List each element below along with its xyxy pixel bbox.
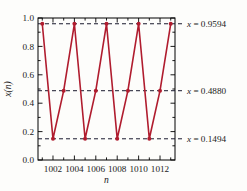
x-tick-label: 1008 <box>108 164 127 174</box>
x-tick-label: 1002 <box>44 164 63 174</box>
reference-line-label: x = 0.4880 <box>186 86 227 96</box>
data-point-marker <box>62 89 66 93</box>
chart-figure: 100210041006100810101012 0.00.20.40.60.8… <box>0 0 247 191</box>
data-point-marker <box>115 137 119 141</box>
reference-line-label: x = 0.1494 <box>186 134 227 144</box>
data-point-marker <box>51 137 55 141</box>
x-tick-label: 1006 <box>87 164 106 174</box>
x-axis-label: n <box>104 174 109 185</box>
data-point-marker <box>72 22 76 26</box>
data-point-marker <box>169 22 173 26</box>
data-point-marker <box>158 89 162 93</box>
data-point-marker <box>126 89 130 93</box>
data-point-marker <box>137 22 141 26</box>
y-tick-label: 1.0 <box>23 13 35 23</box>
x-tick-label: 1004 <box>65 164 84 174</box>
x-tick-label: 1010 <box>129 164 148 174</box>
y-tick-label: 0.6 <box>23 70 35 80</box>
y-tick-label: 0.8 <box>23 42 35 52</box>
y-tick-label: 0.0 <box>23 155 35 165</box>
period-three-orbit-chart: 100210041006100810101012 0.00.20.40.60.8… <box>0 0 247 191</box>
reference-line-label: x = 0.9594 <box>186 19 227 29</box>
y-tick-label: 0.2 <box>23 127 35 137</box>
data-point-marker <box>105 22 109 26</box>
data-point-marker <box>147 137 151 141</box>
data-point-marker <box>83 137 87 141</box>
x-tick-label: 1012 <box>151 164 170 174</box>
y-axis-label: x(n) <box>2 81 14 97</box>
y-tick-label: 0.4 <box>23 98 35 108</box>
data-point-marker <box>94 89 98 93</box>
data-point-marker <box>40 22 44 26</box>
